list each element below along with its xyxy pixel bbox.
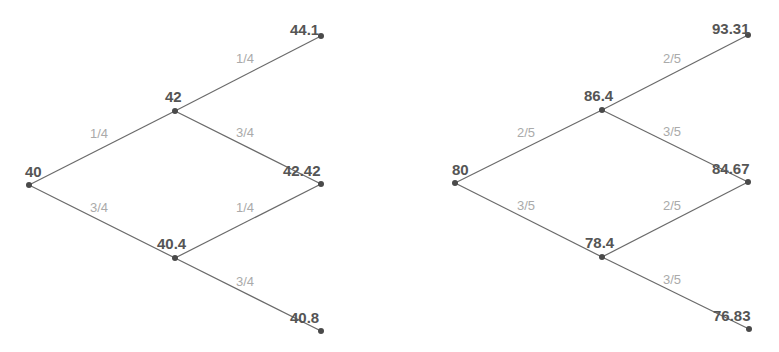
tree-node <box>599 254 605 260</box>
probability-label: 2/5 <box>663 198 681 213</box>
probability-label: 2/5 <box>663 51 681 66</box>
node-value-label: 84.67 <box>712 160 750 177</box>
probability-label: 3/5 <box>663 272 681 287</box>
tree-edge <box>455 110 602 183</box>
probability-label: 3/4 <box>236 125 254 140</box>
probability-label: 3/5 <box>663 124 681 139</box>
node-value-label: 42.42 <box>283 162 321 179</box>
tree-edge <box>29 185 175 258</box>
probability-label: 3/5 <box>517 198 535 213</box>
tree-node <box>745 179 751 185</box>
tree-edge <box>455 183 602 257</box>
tree-node <box>452 180 458 186</box>
tree-node <box>172 108 178 114</box>
tree-node <box>746 326 752 332</box>
tree-edge <box>175 184 321 258</box>
binomial-trees-diagram: 1/43/41/43/41/43/4404240.444.142.4240.8 … <box>0 0 779 352</box>
node-value-label: 40.4 <box>157 235 187 252</box>
node-value-label: 86.4 <box>584 87 614 104</box>
node-value-label: 44.1 <box>290 21 319 38</box>
node-value-label: 40 <box>25 163 42 180</box>
node-value-label: 80 <box>452 161 469 178</box>
tree-node <box>318 181 324 187</box>
tree-edge <box>29 111 175 185</box>
tree-node <box>318 328 324 334</box>
tree-node <box>172 255 178 261</box>
probability-label: 3/4 <box>90 200 108 215</box>
node-value-label: 78.4 <box>585 234 615 251</box>
tree-edge <box>602 35 748 110</box>
tree-edge <box>175 36 321 111</box>
node-value-label: 76.83 <box>713 307 751 324</box>
tree-node <box>26 182 32 188</box>
node-value-label: 42 <box>165 88 182 105</box>
node-value-label: 93.31 <box>712 20 750 37</box>
tree-node <box>599 107 605 113</box>
node-value-label: 40.8 <box>290 309 319 326</box>
probability-label: 1/4 <box>236 200 254 215</box>
probability-label: 3/4 <box>236 274 254 289</box>
left-tree: 1/43/41/43/41/43/4404240.444.142.4240.8 <box>25 21 324 334</box>
probability-label: 2/5 <box>517 125 535 140</box>
probability-label: 1/4 <box>90 126 108 141</box>
tree-edge <box>602 182 748 257</box>
right-tree: 2/53/52/53/52/53/58086.478.493.3184.6776… <box>452 20 752 332</box>
probability-label: 1/4 <box>236 51 254 66</box>
